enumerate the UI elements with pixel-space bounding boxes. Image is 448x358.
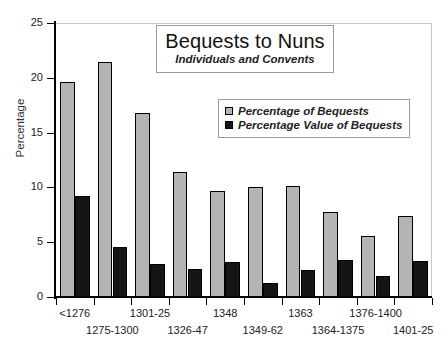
- legend-item: Percentage Value of Bequests: [225, 118, 402, 132]
- x-tick-mark: [169, 298, 170, 305]
- x-tick-label: 1348: [213, 307, 237, 319]
- bar: [301, 270, 316, 297]
- x-tick-mark: [357, 298, 358, 305]
- bar: [135, 113, 150, 297]
- x-tick-mark: [94, 298, 95, 305]
- chart-title: Bequests to Nuns: [163, 30, 327, 52]
- x-tick-label: <1276: [59, 307, 90, 319]
- legend-swatch-gray: [225, 107, 233, 115]
- legend-label: Percentage Value of Bequests: [238, 119, 402, 132]
- bar: [75, 196, 90, 297]
- bar: [210, 191, 225, 297]
- chart-subtitle: Individuals and Convents: [163, 53, 327, 66]
- x-tick-mark: [319, 298, 320, 305]
- bar: [188, 269, 203, 297]
- x-tick-label: 1349-62: [243, 324, 283, 336]
- bar: [413, 261, 428, 297]
- chart-title-box: Bequests to Nuns Individuals and Convent…: [156, 25, 334, 73]
- bar: [173, 172, 188, 297]
- bar: [338, 260, 353, 297]
- bar: [248, 187, 263, 297]
- x-tick-mark: [432, 298, 433, 305]
- x-tick-label: 1275-1300: [86, 324, 139, 336]
- x-tick-mark: [56, 298, 57, 305]
- legend-item: Percentage of Bequests: [225, 104, 402, 118]
- legend-label: Percentage of Bequests: [238, 105, 369, 118]
- bar: [263, 283, 278, 297]
- bar: [113, 247, 128, 297]
- x-tick-label: 1401-25: [393, 324, 433, 336]
- bar: [361, 236, 376, 297]
- x-tick-mark: [244, 298, 245, 305]
- bar: [376, 276, 391, 297]
- bar: [60, 82, 75, 297]
- x-tick-label: 1364-1375: [312, 324, 365, 336]
- bar: [225, 262, 240, 297]
- x-tick-mark: [394, 298, 395, 305]
- x-tick-label: 1376-1400: [349, 307, 402, 319]
- x-tick-label: 1363: [288, 307, 312, 319]
- bar: [398, 216, 413, 297]
- x-tick-label: 1301-25: [130, 307, 170, 319]
- bar: [323, 212, 338, 297]
- bar: [98, 62, 113, 297]
- legend-swatch-black: [225, 121, 233, 129]
- x-tick-label: 1326-47: [167, 324, 207, 336]
- x-tick-mark: [282, 298, 283, 305]
- x-tick-mark: [131, 298, 132, 305]
- bar: [150, 264, 165, 297]
- x-tick-mark: [206, 298, 207, 305]
- chart-legend: Percentage of BequestsPercentage Value o…: [218, 99, 410, 138]
- chart-figure: Percentage 0510152025 <12761275-13001301…: [0, 0, 448, 358]
- bar: [286, 186, 301, 297]
